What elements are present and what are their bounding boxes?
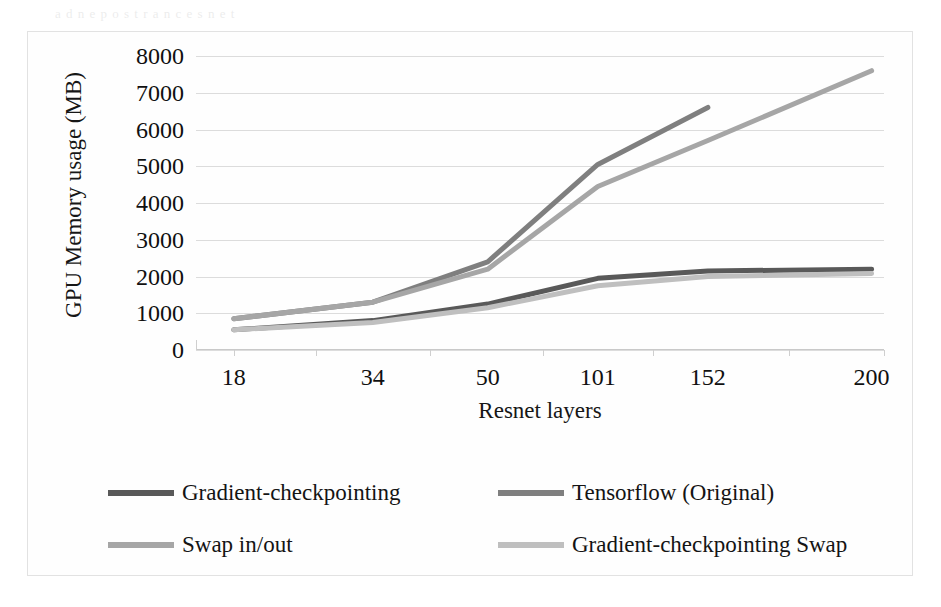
- y-axis-tick-label: 3000: [136, 226, 184, 253]
- legend-label: Gradient-checkpointing Swap: [572, 532, 847, 558]
- y-axis-tick-label: 0: [172, 337, 184, 364]
- plot-area: 010002000300040005000600070008000 183450…: [196, 56, 884, 350]
- legend-label: Gradient-checkpointing: [182, 480, 400, 506]
- series-line: [234, 107, 708, 318]
- y-axis-tick-label: 1000: [136, 300, 184, 327]
- legend-item[interactable]: Gradient-checkpointing Swap: [498, 532, 914, 558]
- x-axis-tickmark: [789, 350, 790, 356]
- y-axis-tick-label: 4000: [136, 190, 184, 217]
- x-axis-tickmark: [884, 350, 885, 356]
- x-axis-tick-label: 18: [222, 364, 246, 391]
- legend-swatch-line-icon: [108, 542, 174, 548]
- legend-item[interactable]: Tensorflow (Original): [498, 480, 914, 506]
- scan-bleedthrough-ghost-text: a d n e p o s t r a n c e s n e t: [0, 0, 941, 30]
- x-axis-tick-label: 50: [476, 364, 500, 391]
- x-axis-tickmark: [234, 350, 235, 356]
- legend-swatch-line-icon: [498, 490, 564, 496]
- x-axis-title: Resnet layers: [196, 398, 884, 424]
- y-axis-tick-label: 2000: [136, 263, 184, 290]
- legend-label: Tensorflow (Original): [572, 480, 774, 506]
- series-lines: [196, 56, 884, 350]
- legend-swatch-line-icon: [108, 490, 174, 496]
- x-axis-tickmark: [543, 350, 544, 356]
- x-axis-tick-label: 34: [361, 364, 385, 391]
- x-axis-tickmark: [653, 350, 654, 356]
- series-line: [234, 269, 872, 330]
- x-axis-tickmark: [430, 350, 431, 356]
- legend-item[interactable]: Swap in/out: [108, 532, 498, 558]
- y-axis-tick-label: 7000: [136, 79, 184, 106]
- chart-area: GPU Memory usage (MB) 010002000300040005…: [28, 32, 914, 452]
- legend-label: Swap in/out: [182, 532, 293, 558]
- chart-legend: Gradient-checkpointingTensorflow (Origin…: [108, 480, 914, 558]
- legend-swatch-line-icon: [498, 542, 564, 548]
- y-axis-tick-label: 5000: [136, 153, 184, 180]
- x-axis-tickmark: [316, 350, 317, 356]
- legend-item[interactable]: Gradient-checkpointing: [108, 480, 498, 506]
- x-axis-tick-label: 200: [854, 364, 890, 391]
- x-axis-tick-label: 152: [690, 364, 726, 391]
- y-axis-tick-label: 6000: [136, 116, 184, 143]
- y-axis-tick-label: 8000: [136, 43, 184, 70]
- x-axis-tick-label: 101: [580, 364, 616, 391]
- series-line: [234, 71, 872, 319]
- y-axis-title: GPU Memory usage (MB): [61, 45, 87, 345]
- ghost-text-fragment: a d n e p o s t r a n c e s n e t: [55, 6, 235, 22]
- gridline: [196, 350, 884, 351]
- figure-frame: GPU Memory usage (MB) 010002000300040005…: [27, 31, 913, 576]
